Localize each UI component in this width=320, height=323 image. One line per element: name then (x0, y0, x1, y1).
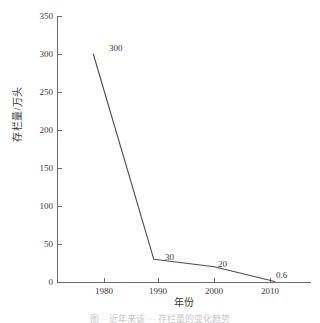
series-polyline (93, 54, 274, 282)
figure-caption: 图 ·· 近年来该 ··· 存栏量的变化趋势 (0, 314, 320, 323)
data-point-label-1980: 300 (109, 44, 123, 53)
data-series-line (0, 0, 320, 323)
data-point-label-2000: 20 (218, 260, 227, 269)
data-point-label-2010: 0.6 (276, 271, 287, 280)
line-chart-figure: 350 300 250 200 150 100 50 0 (0, 0, 320, 323)
data-point-label-1990: 30 (165, 253, 174, 262)
